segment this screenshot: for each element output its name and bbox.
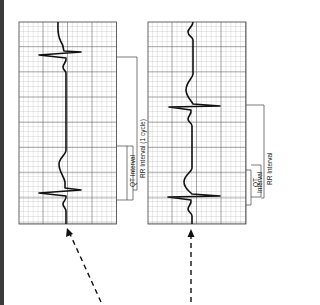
left-rr-interval-label: RR Interval (1 cycle) [139, 119, 146, 178]
right-dashed-arrow [188, 229, 195, 302]
left-qt-interval-label: QT Interval [129, 155, 136, 187]
right-rr-interval-label: RR Interval [266, 152, 273, 185]
left-dashed-arrow [66, 228, 101, 302]
right-qt-label-line2: Interval [256, 172, 263, 193]
